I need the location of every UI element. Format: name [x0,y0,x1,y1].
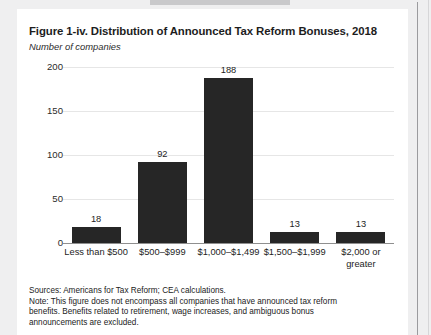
scan-artifact-band [150,0,290,5]
page-edge-rule [417,2,418,335]
bar [138,162,187,243]
figure-notes: Sources: Americans for Tax Reform; CEA c… [29,286,359,328]
figure-note-line: Note: This figure does not encompass all… [29,297,359,308]
bar [270,232,319,243]
bar-value-label: 18 [66,214,126,224]
bar-value-label: 188 [199,65,259,75]
bar-value-label: 13 [331,219,391,229]
bar-value-label: 13 [265,219,325,229]
figure-note-line: benefits. Benefits related to retirement… [29,307,359,318]
bar [204,78,253,243]
page-outer-rule [428,0,429,335]
bar [336,232,385,243]
bar [72,227,121,243]
x-axis-line [63,243,394,244]
category-label: $2,000 orgreater [321,247,401,270]
y-axis-tick-label: 200 [23,61,63,72]
y-axis-tick-label: 150 [23,105,63,116]
figure-note-line: Sources: Americans for Tax Reform; CEA c… [29,286,359,297]
figure-note-line: announcements are excluded. [29,318,359,329]
scanned-page: Figure 1-iv. Distribution of Announced T… [0,0,431,335]
figure-card: Figure 1-iv. Distribution of Announced T… [17,9,408,335]
bar-value-label: 92 [132,149,192,159]
y-axis-tick-label: 100 [23,149,63,160]
y-axis-tick-label: 50 [23,193,63,204]
